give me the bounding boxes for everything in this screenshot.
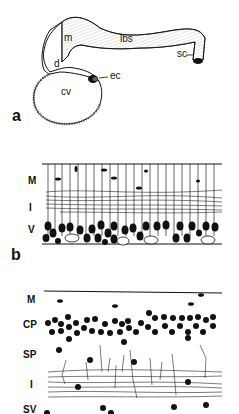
label-cv: cv xyxy=(61,87,71,97)
layer-label-I: I xyxy=(29,203,32,213)
panel-letter-b: b xyxy=(11,247,21,263)
layer-label-SV: SV xyxy=(23,405,36,414)
layer-label-I: I xyxy=(30,380,33,390)
label-d: d xyxy=(54,59,60,69)
panel-b: M I V b xyxy=(0,140,239,280)
layer-label-M: M xyxy=(27,295,35,305)
layer-label-M: M xyxy=(28,176,36,186)
cortex-layers-late-drawing xyxy=(0,280,239,414)
cortex-layers-early-drawing xyxy=(0,140,239,280)
panel-a: m lbs sc d ec cv a xyxy=(0,0,239,140)
label-sc: sc xyxy=(177,49,187,59)
label-m: m xyxy=(64,33,72,43)
layer-label-CP: CP xyxy=(23,320,37,330)
panel-c: M CP SP I SV xyxy=(0,280,239,414)
layer-label-V: V xyxy=(28,225,35,235)
layer-label-SP: SP xyxy=(23,350,36,360)
label-lbs: lbs xyxy=(120,34,133,44)
label-ec: ec xyxy=(110,71,121,81)
panel-letter-a: a xyxy=(12,108,21,124)
